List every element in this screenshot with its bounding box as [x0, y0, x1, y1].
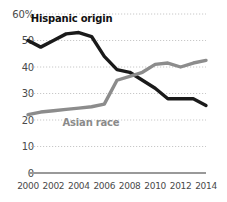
x-axis-tick-2008: 2008 [117, 181, 143, 191]
x-axis-tick-2006: 2006 [91, 181, 117, 191]
series-lines [28, 33, 206, 115]
chart-container: 60% 50 40 30 20 10 0 Hispanic origin Asi… [0, 0, 227, 202]
chart-plot-area [0, 0, 227, 202]
x-axis-tick-2014: 2014 [193, 181, 219, 191]
series-label-asian-race: Asian race [63, 117, 120, 128]
series-label-hispanic-origin: Hispanic origin [31, 13, 113, 24]
series-line-hispanic-origin [28, 33, 206, 106]
x-axis-tick-2002: 2002 [40, 181, 66, 191]
x-axis-tick-2010: 2010 [142, 181, 168, 191]
x-axis-tick-2012: 2012 [168, 181, 194, 191]
x-axis-tick-2000: 2000 [15, 181, 41, 191]
x-axis-tick-2004: 2004 [66, 181, 92, 191]
